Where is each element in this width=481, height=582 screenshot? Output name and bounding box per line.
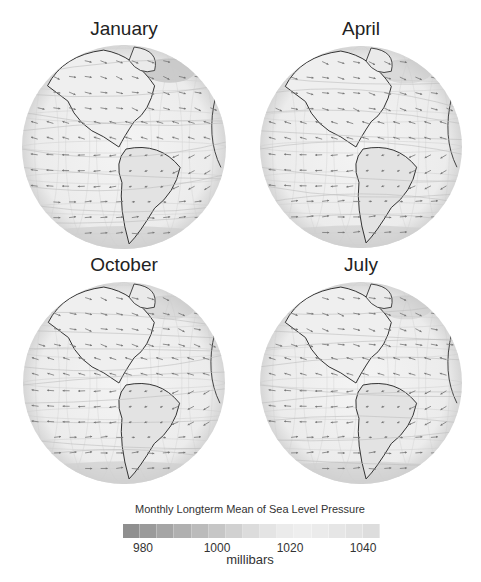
colorbar-segment: [226, 524, 243, 538]
colorbar-tick-label: 1040: [343, 541, 383, 555]
colorbar-segment: [192, 524, 209, 538]
globe-map-july: [258, 280, 464, 486]
colorbar-segment: [140, 524, 157, 538]
colorbar-segment: [312, 524, 329, 538]
colorbar-segment: [260, 524, 277, 538]
panel-title-april: April: [259, 18, 463, 40]
globe-map-january: [20, 43, 228, 251]
colorbar-tick-label: 980: [123, 541, 163, 555]
colorbar-segment: [157, 524, 174, 538]
colorbar-units: millibars: [200, 552, 300, 567]
colorbar-segment: [277, 524, 294, 538]
panel-title-october: October: [22, 254, 226, 276]
colorbar-segment: [294, 524, 311, 538]
colorbar: [123, 524, 380, 538]
colorbar-segment: [243, 524, 260, 538]
colorbar-segment: [209, 524, 226, 538]
colorbar-segment: [123, 524, 140, 538]
colorbar-segment: [346, 524, 363, 538]
colorbar-title: Monthly Longterm Mean of Sea Level Press…: [100, 503, 400, 515]
colorbar-segment: [174, 524, 191, 538]
panel-title-july: July: [259, 254, 463, 276]
colorbar-segment: [329, 524, 346, 538]
panel-title-january: January: [22, 18, 226, 40]
colorbar-segment: [363, 524, 380, 538]
globe-map-october: [21, 280, 227, 486]
globe-map-april: [258, 44, 464, 250]
